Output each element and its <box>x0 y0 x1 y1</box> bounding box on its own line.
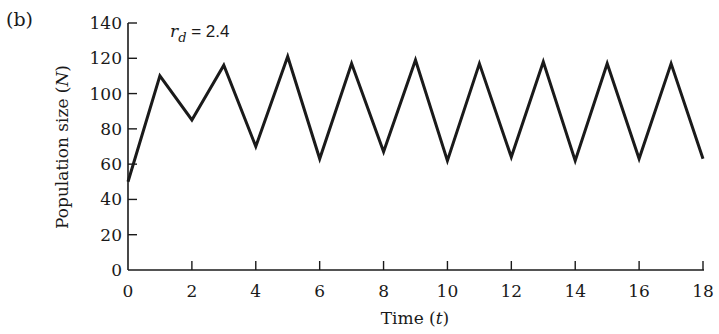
y-tick-label: 120 <box>90 48 122 68</box>
y-tick-label: 60 <box>100 154 122 174</box>
panel-label: (b) <box>6 8 33 30</box>
rd-annotation: rd = 2.4 <box>170 21 229 45</box>
y-tick-label: 20 <box>100 225 122 245</box>
x-tick-label: 18 <box>692 281 714 301</box>
x-tick-label: 0 <box>123 281 134 301</box>
y-tick-label: 0 <box>111 260 122 280</box>
ticks: 024681012141618020406080100120140 <box>90 13 714 301</box>
y-tick-label: 40 <box>100 189 122 209</box>
x-tick-label: 8 <box>378 281 389 301</box>
x-tick-label: 12 <box>501 281 523 301</box>
x-tick-label: 4 <box>250 281 261 301</box>
y-tick-label: 80 <box>100 119 122 139</box>
x-tick-label: 16 <box>628 281 650 301</box>
x-tick-label: 10 <box>437 281 459 301</box>
x-tick-label: 14 <box>564 281 586 301</box>
population-series-line <box>128 57 703 182</box>
population-chart: 024681012141618020406080100120140 (b) rd… <box>0 0 719 334</box>
x-tick-label: 6 <box>314 281 325 301</box>
y-axis-title: Population size (N) <box>52 65 72 229</box>
y-tick-label: 140 <box>90 13 122 33</box>
x-axis-title: Time (t) <box>381 308 449 328</box>
y-tick-label: 100 <box>90 84 122 104</box>
x-tick-label: 2 <box>186 281 197 301</box>
